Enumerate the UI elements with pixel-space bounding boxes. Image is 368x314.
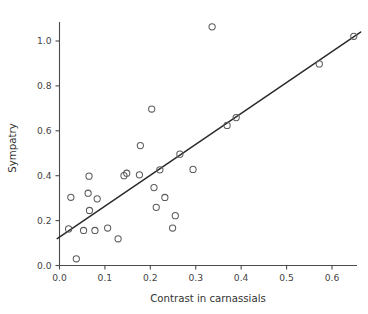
data-point [68,194,74,200]
data-point [209,24,215,30]
x-tick-label: 0.5 [279,272,294,283]
data-point [86,173,92,179]
data-point [151,184,157,190]
data-point [115,236,121,242]
x-axis-title: Contrast in carnassials [150,293,266,304]
data-point [73,256,79,262]
data-point [190,166,196,172]
x-tick-label: 0.1 [98,272,113,283]
x-tick-label: 0.4 [234,272,249,283]
y-tick-label: 1.0 [37,35,52,46]
x-tick-label: 0.6 [325,272,340,283]
y-tick-label: 0.2 [37,215,52,226]
y-tick-labels: 0.00.20.40.60.81.0 [37,35,52,271]
regression-line-segment [57,32,360,239]
scatter-plot-figure: 0.00.20.40.60.81.0 0.00.10.20.30.40.50.6… [0,0,368,314]
data-point [85,190,91,196]
x-tick-marks [60,266,333,270]
x-tick-label: 0.0 [52,272,67,283]
regression-line [57,32,360,239]
y-tick-label: 0.4 [37,170,52,181]
y-tick-marks [56,41,60,266]
x-tick-labels: 0.00.10.20.30.40.50.6 [52,272,339,283]
x-tick-label: 0.3 [188,272,203,283]
data-point [137,143,143,149]
y-tick-label: 0.6 [37,125,52,136]
data-point [80,227,86,233]
data-point [92,227,98,233]
y-axis-title: Sympatry [7,123,18,172]
data-point [153,204,159,210]
data-point [162,194,168,200]
x-tick-label: 0.2 [143,272,158,283]
y-tick-label: 0.8 [37,80,52,91]
data-point [94,196,100,202]
data-point [172,213,178,219]
data-point [105,225,111,231]
plot-canvas: 0.00.20.40.60.81.0 0.00.10.20.30.40.50.6… [0,0,368,314]
y-axis-group: 0.00.20.40.60.81.0 [37,22,60,271]
data-point [316,61,322,67]
data-point [136,172,142,178]
y-tick-label: 0.0 [37,260,52,271]
data-points [65,24,356,262]
x-axis-group: 0.00.10.20.30.40.50.6 [52,266,357,283]
data-point [169,225,175,231]
data-point [149,106,155,112]
data-point [86,207,92,213]
